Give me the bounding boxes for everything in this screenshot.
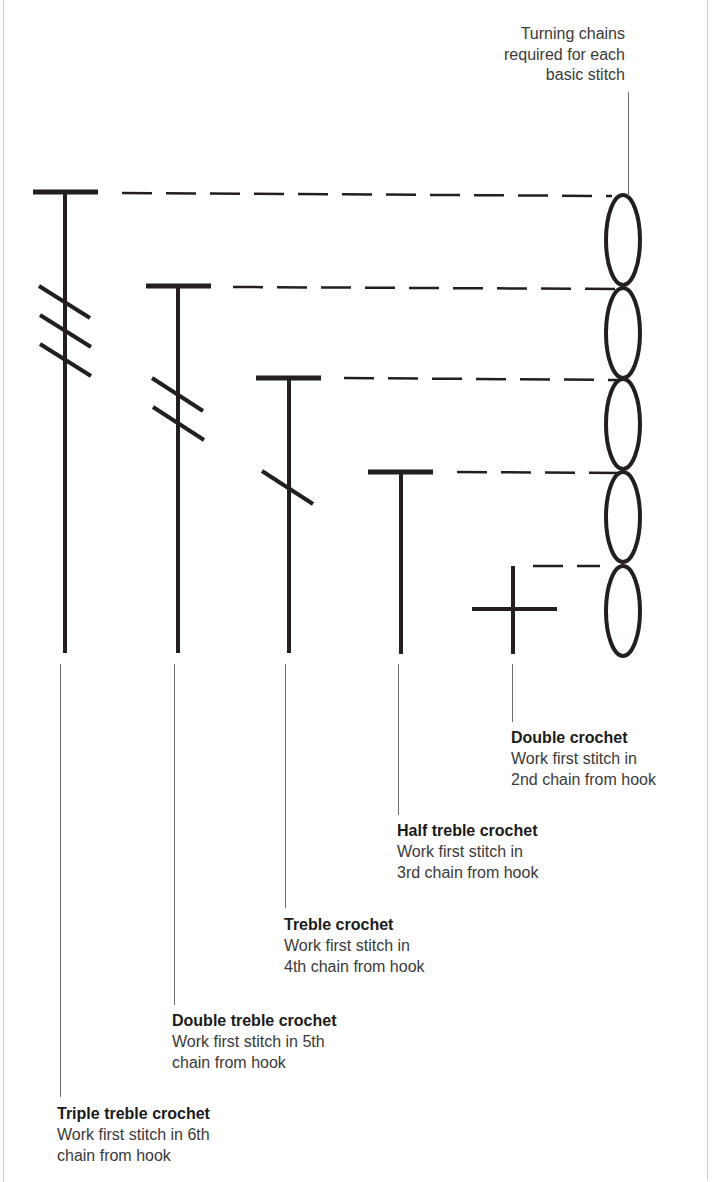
treble-crochet-symbol bbox=[256, 378, 321, 653]
caption-title: Triple treble crochet bbox=[57, 1103, 210, 1124]
double-treble-crochet-symbol bbox=[146, 286, 211, 653]
note-line: basic stitch bbox=[504, 65, 625, 86]
turning-chain-ovals bbox=[606, 195, 640, 656]
caption-line: Work first stitch in bbox=[511, 748, 656, 769]
caption-treble-crochet: Treble crochet Work first stitch in 4th … bbox=[284, 914, 425, 977]
caption-line: 4th chain from hook bbox=[284, 956, 425, 977]
dashed-guide-lines bbox=[122, 193, 620, 566]
caption-line: chain from hook bbox=[172, 1052, 336, 1073]
caption-line: Work first stitch in 5th bbox=[172, 1031, 336, 1052]
triple-treble-crochet-symbol bbox=[33, 192, 98, 653]
caption-title: Double treble crochet bbox=[172, 1010, 336, 1031]
caption-double-treble-crochet: Double treble crochet Work first stitch … bbox=[172, 1010, 336, 1073]
turning-chains-note: Turning chains required for each basic s… bbox=[504, 24, 625, 86]
stitch-diagram bbox=[0, 0, 717, 1182]
chain-oval-4 bbox=[606, 472, 640, 562]
half-treble-crochet-symbol bbox=[368, 472, 433, 654]
caption-line: 3rd chain from hook bbox=[397, 862, 538, 883]
caption-line: Work first stitch in bbox=[397, 841, 538, 862]
caption-title: Treble crochet bbox=[284, 914, 425, 935]
chain-oval-5 bbox=[606, 566, 640, 656]
note-line: required for each bbox=[504, 45, 625, 66]
caption-line: Work first stitch in 6th bbox=[57, 1124, 210, 1145]
caption-double-crochet: Double crochet Work first stitch in 2nd … bbox=[511, 727, 656, 790]
caption-line: chain from hook bbox=[57, 1145, 210, 1166]
caption-half-treble-crochet: Half treble crochet Work first stitch in… bbox=[397, 820, 538, 883]
caption-line: Work first stitch in bbox=[284, 935, 425, 956]
caption-title: Double crochet bbox=[511, 727, 656, 748]
chain-oval-2 bbox=[606, 288, 640, 378]
note-line: Turning chains bbox=[504, 24, 625, 45]
caption-line: 2nd chain from hook bbox=[511, 769, 656, 790]
caption-title: Half treble crochet bbox=[397, 820, 538, 841]
chain-oval-1 bbox=[606, 195, 640, 285]
chain-oval-3 bbox=[606, 379, 640, 469]
double-crochet-symbol bbox=[472, 566, 557, 654]
caption-triple-treble-crochet: Triple treble crochet Work first stitch … bbox=[57, 1103, 210, 1166]
